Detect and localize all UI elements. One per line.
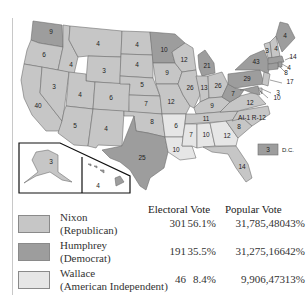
state-votes-ny: 43	[252, 58, 260, 65]
popular-votes: 9,906,473	[241, 273, 285, 285]
state-votes-ct: 8	[284, 69, 288, 76]
electoral-percent: 35.5%	[188, 245, 216, 257]
legend-row-nixon: Nixon(Republican)30156.1%31,785,48043%	[18, 212, 306, 242]
state-votes-tn: 11	[203, 115, 210, 122]
state-votes-hi: 4	[96, 182, 100, 189]
dc-label: D.C.	[282, 147, 294, 153]
party-label: (American Independent)	[60, 280, 168, 293]
state-votes-tx: 25	[138, 154, 146, 161]
electoral-percent: 56.1%	[188, 217, 216, 229]
state-votes-oh: 26	[214, 82, 222, 89]
party-label: (Democrat)	[60, 252, 111, 265]
state-nj	[262, 72, 270, 86]
candidate-name: Humphrey(Democrat)	[60, 239, 111, 265]
state-votes-ia: 9	[165, 69, 169, 76]
legend-row-humphrey: Humphrey(Democrat)19135.5%31,275,16642%	[18, 240, 306, 270]
state-votes-nd: 4	[135, 41, 139, 48]
state-votes-sc: 8	[237, 123, 241, 130]
state-votes-vt: 3	[265, 47, 269, 54]
state-hi	[88, 164, 124, 186]
legend-swatch	[18, 271, 50, 289]
popular-percent: 43%	[285, 217, 305, 229]
state-votes-ut: 4	[78, 91, 82, 98]
popular-votes: 31,785,480	[236, 217, 286, 229]
state-votes-mt: 4	[96, 40, 100, 47]
state-votes-ky: 9	[210, 102, 214, 109]
electoral-votes: 301	[170, 217, 187, 229]
state-votes-in: 13	[200, 84, 208, 91]
state-ak	[24, 150, 72, 183]
candidate-name: Wallace(American Independent)	[60, 267, 168, 293]
state-votes-mo: 12	[167, 98, 175, 105]
candidate-label: Nixon	[60, 211, 117, 224]
party-label: (Republican)	[60, 224, 117, 237]
state-votes-al: 10	[202, 131, 210, 138]
state-ri	[278, 62, 282, 67]
state-votes-md: 10	[273, 94, 281, 101]
state-votes-me: 4	[283, 32, 287, 39]
state-votes-wv: 7	[231, 90, 235, 97]
state-votes-nm: 4	[104, 125, 108, 132]
candidate-name: Nixon(Republican)	[60, 211, 117, 237]
state-votes-nc: AI-1 R-12	[238, 114, 266, 121]
state-votes-fl: 14	[238, 163, 246, 170]
state-ct	[268, 63, 278, 70]
state-votes-ga: 12	[223, 132, 231, 139]
us-electoral-map: 9640434345644457825109126101226211326911…	[0, 0, 306, 200]
state-votes-il: 26	[186, 84, 194, 91]
state-votes-wa: 9	[49, 28, 53, 35]
state-votes-ma: 14	[289, 53, 297, 60]
state-votes-mn: 10	[160, 46, 168, 53]
legend-swatch	[18, 243, 50, 261]
popular-percent: 42%	[285, 245, 305, 257]
candidate-label: Wallace	[60, 267, 168, 280]
state-votes-ak: 3	[49, 158, 53, 165]
legend-row-wallace: Wallace(American Independent)468.4%9,906…	[18, 268, 306, 298]
electoral-percent: 8.4%	[193, 273, 216, 285]
state-votes-nj: 17	[286, 78, 294, 85]
state-votes-ar: 6	[174, 122, 178, 129]
state-votes-sd: 4	[135, 61, 139, 68]
state-votes-ok: 8	[150, 118, 154, 125]
state-votes-nv: 3	[52, 83, 56, 90]
dc-votes: 3	[266, 146, 270, 153]
candidate-label: Humphrey	[60, 239, 111, 252]
state-votes-mi: 21	[203, 62, 211, 69]
state-votes-id: 4	[69, 61, 73, 68]
state-votes-la: 10	[172, 146, 180, 153]
state-votes-ne: 5	[140, 81, 144, 88]
state-votes-va: 12	[246, 99, 254, 106]
legend-swatch	[18, 215, 50, 233]
state-votes-or: 6	[42, 51, 46, 58]
state-votes-co: 6	[109, 94, 113, 101]
state-votes-ms: 7	[189, 131, 193, 138]
state-votes-nh: 4	[274, 45, 278, 52]
electoral-votes: 46	[175, 273, 186, 285]
state-votes-ks: 7	[144, 100, 148, 107]
state-votes-pa: 29	[243, 75, 251, 82]
state-votes-az: 5	[73, 122, 77, 129]
state-votes-wy: 3	[102, 67, 106, 74]
state-votes-ca: 40	[34, 102, 42, 109]
state-votes-wi: 12	[180, 56, 188, 63]
popular-percent: 13%	[285, 273, 305, 285]
electoral-votes: 191	[170, 245, 187, 257]
popular-votes: 31,275,166	[236, 245, 286, 257]
